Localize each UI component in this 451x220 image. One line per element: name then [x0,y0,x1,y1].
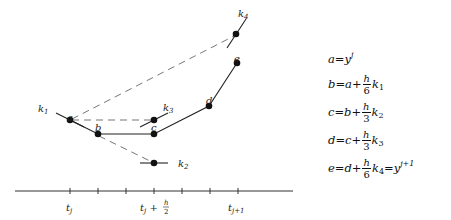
equation-b: b = a + h6 k1 [328,70,414,98]
point-k4 [233,31,240,38]
equations: a = yj b = a + h6 k1 c = b + h3 k2 d = c… [328,48,414,182]
label-b: b [95,122,101,133]
tick-label-tj1: tj+1 [228,202,245,215]
point-k2 [151,160,158,167]
tick-label-h: h [164,199,169,207]
tick-label-tmid: tj + [140,202,158,215]
equation-c: c = b + h3 k2 [328,98,414,126]
dash-b-to-k2 [99,136,150,161]
equation-d: d = c + h3 k3 [328,126,414,154]
equation-a: a = yj [328,48,414,70]
label-k2: k2 [178,158,189,171]
label-d: d [206,95,212,106]
tick-label-tj: tj [66,202,73,215]
label-k3: k3 [163,102,174,115]
label-a: a [67,112,73,123]
label-k1: k1 [38,103,49,116]
tick-label-2: 2 [164,208,168,216]
label-c: c [151,122,157,133]
label-e: e [234,53,240,64]
label-k4: k4 [238,8,249,21]
slope-segments [56,19,246,163]
equation-e: e = d + h6 k4 = yj+1 [328,154,414,182]
